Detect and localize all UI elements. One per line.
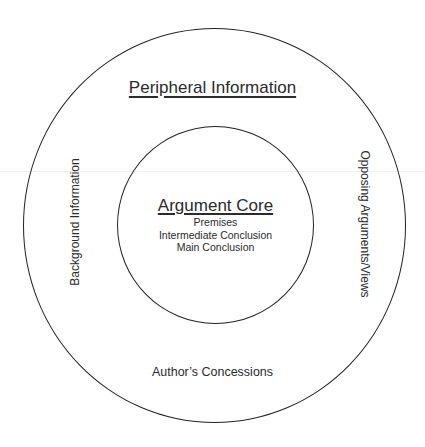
peripheral-title-text: Peripheral Information (129, 78, 296, 97)
argument-core-block: Argument Core Premises Intermediate Conc… (117, 196, 314, 254)
core-item-premises: Premises (117, 216, 314, 229)
argument-core-title: Argument Core (117, 196, 314, 216)
background-information-label: Background Information (68, 158, 82, 285)
opposing-arguments-label: Opposing Arguments/Views (358, 150, 372, 297)
peripheral-information-title: Peripheral Information (0, 78, 425, 98)
core-item-main-conclusion: Main Conclusion (117, 241, 314, 254)
authors-concessions-label: Author’s Concessions (0, 365, 425, 379)
core-item-intermediate-conclusion: Intermediate Conclusion (117, 229, 314, 242)
argument-core-title-text: Argument Core (158, 196, 273, 215)
